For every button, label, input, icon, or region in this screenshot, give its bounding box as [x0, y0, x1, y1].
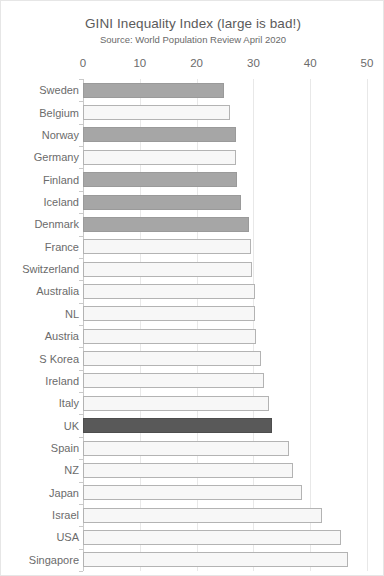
category-tick — [79, 280, 83, 281]
category-tick — [79, 549, 83, 550]
category-tick — [79, 414, 83, 415]
x-axis-tick-label: 0 — [80, 56, 86, 70]
x-axis-ticks: 01020304050 — [1, 56, 384, 74]
bar-nz — [83, 463, 293, 478]
category-tick — [79, 482, 83, 483]
y-label-ireland: Ireland — [1, 374, 79, 388]
category-tick — [79, 303, 83, 304]
category-tick — [79, 191, 83, 192]
category-tick — [79, 146, 83, 147]
bar-singapore — [83, 552, 348, 567]
x-axis-tick-label: 50 — [361, 56, 374, 70]
category-tick — [79, 124, 83, 125]
x-axis-tick-label: 20 — [190, 56, 203, 70]
category-tick — [79, 504, 83, 505]
y-label-s-korea: S Korea — [1, 352, 79, 366]
category-tick — [79, 437, 83, 438]
bar-s-korea — [83, 351, 261, 366]
category-tick — [79, 325, 83, 326]
y-label-italy: Italy — [1, 396, 79, 410]
y-label-norway: Norway — [1, 128, 79, 142]
category-tick — [79, 526, 83, 527]
y-label-switzerland: Switzerland — [1, 262, 79, 276]
y-label-belgium: Belgium — [1, 106, 79, 120]
y-label-singapore: Singapore — [1, 553, 79, 567]
bar-iceland — [83, 195, 241, 210]
bar-spain — [83, 441, 289, 456]
y-label-israel: Israel — [1, 508, 79, 522]
y-label-iceland: Iceland — [1, 195, 79, 209]
gridline — [367, 79, 368, 571]
x-axis-tick-label: 40 — [304, 56, 317, 70]
y-label-spain: Spain — [1, 441, 79, 455]
chart-header: GINI Inequality Index (large is bad!) So… — [1, 15, 384, 47]
category-tick — [79, 459, 83, 460]
category-tick — [79, 79, 83, 80]
y-label-germany: Germany — [1, 150, 79, 164]
category-tick — [79, 168, 83, 169]
category-tick — [79, 347, 83, 348]
plot-area — [83, 79, 367, 571]
bar-norway — [83, 127, 236, 142]
y-label-japan: Japan — [1, 486, 79, 500]
bar-japan — [83, 485, 302, 500]
category-tick — [79, 101, 83, 102]
chart-title: GINI Inequality Index (large is bad!) — [1, 15, 384, 32]
x-axis-tick-label: 10 — [133, 56, 146, 70]
bar-belgium — [83, 105, 230, 120]
bar-austria — [83, 329, 256, 344]
bar-australia — [83, 284, 255, 299]
chart-subtitle: Source: World Population Review April 20… — [1, 33, 384, 47]
bar-germany — [83, 150, 236, 165]
bar-switzerland — [83, 262, 252, 277]
bar-uk — [83, 418, 272, 433]
bar-nl — [83, 306, 255, 321]
bar-finland — [83, 172, 237, 187]
gridline — [310, 79, 311, 571]
y-label-nl: NL — [1, 307, 79, 321]
category-tick — [79, 571, 83, 572]
bar-ireland — [83, 373, 264, 388]
y-label-finland: Finland — [1, 173, 79, 187]
category-tick — [79, 370, 83, 371]
y-axis-category-labels: SwedenBelgiumNorwayGermanyFinlandIceland… — [1, 79, 79, 571]
bar-usa — [83, 530, 341, 545]
y-label-france: France — [1, 240, 79, 254]
category-tick — [79, 258, 83, 259]
category-tick — [79, 236, 83, 237]
bar-israel — [83, 508, 322, 523]
gini-bar-chart: GINI Inequality Index (large is bad!) So… — [0, 0, 384, 576]
y-label-sweden: Sweden — [1, 83, 79, 97]
category-tick — [79, 392, 83, 393]
bar-sweden — [83, 83, 224, 98]
y-label-usa: USA — [1, 530, 79, 544]
y-label-nz: NZ — [1, 463, 79, 477]
bar-italy — [83, 396, 269, 411]
x-axis-tick-label: 30 — [247, 56, 260, 70]
category-tick — [79, 213, 83, 214]
y-label-denmark: Denmark — [1, 217, 79, 231]
y-label-austria: Austria — [1, 329, 79, 343]
y-label-australia: Australia — [1, 284, 79, 298]
y-label-uk: UK — [1, 419, 79, 433]
bar-france — [83, 239, 251, 254]
bar-denmark — [83, 217, 249, 232]
